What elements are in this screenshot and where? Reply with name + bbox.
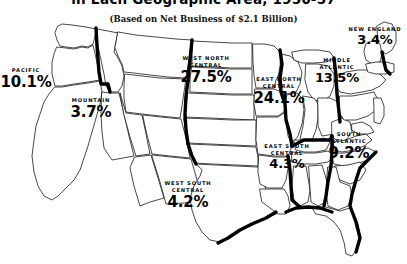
region-label-east-north-central[interactable]: EAST NORTH CENTRAL 24.1% [246, 76, 312, 106]
region-name-west-south-central: WEST SOUTH [150, 180, 226, 187]
region-value-east-north-central: 24.1% [246, 90, 312, 106]
region-label-east-south-central[interactable]: EAST SOUTH CENTRAL 4.3% [254, 143, 320, 171]
region-name-east-south-central: EAST SOUTH [254, 143, 320, 150]
region-label-west-north-central[interactable]: WEST NORTH CENTRAL 27.5% [168, 55, 244, 85]
region-name-east-north-central: EAST NORTH [246, 76, 312, 83]
state-colorado [143, 115, 190, 158]
state-new-jersey [374, 98, 384, 124]
region-value-new-england: 3.4% [344, 33, 406, 47]
region-value-west-south-central: 4.2% [150, 194, 226, 210]
region-label-pacific[interactable]: PACIFIC 10.1% [0, 67, 52, 90]
state-oregon [52, 45, 100, 86]
region-label-new-england[interactable]: NEW ENGLAND 3.4% [344, 26, 406, 47]
region-label-south-atlantic[interactable]: SOUTH ATLANTIC 9.2% [318, 131, 380, 161]
region-name-middle-atlantic: MIDDLE [306, 57, 368, 64]
region-label-middle-atlantic[interactable]: MIDDLE ATLANTIC 13.5% [306, 57, 368, 85]
region-value-east-south-central: 4.3% [254, 157, 320, 171]
region-value-pacific: 10.1% [0, 74, 52, 90]
state-mississippi [292, 166, 310, 206]
state-pennsylvania [339, 92, 378, 120]
state-kansas [184, 118, 256, 146]
region-value-west-north-central: 27.5% [168, 69, 244, 85]
region-value-middle-atlantic: 13.5% [306, 71, 368, 85]
state-oklahoma [188, 144, 258, 166]
statistical-map-figure: in Each Geographic Area, 1956-57 (Based … [0, 0, 407, 264]
region-label-west-south-central[interactable]: WEST SOUTH CENTRAL 4.2% [150, 180, 226, 210]
state-washington [55, 24, 96, 48]
state-nebraska [184, 93, 254, 120]
region-name-west-north-central: WEST NORTH [168, 55, 244, 62]
region-value-mountain: 3.7% [62, 104, 120, 120]
region-value-south-atlantic: 9.2% [318, 145, 380, 161]
region-name-south-atlantic: SOUTH [318, 131, 380, 138]
region-label-mountain[interactable]: MOUNTAIN 3.7% [62, 97, 120, 120]
